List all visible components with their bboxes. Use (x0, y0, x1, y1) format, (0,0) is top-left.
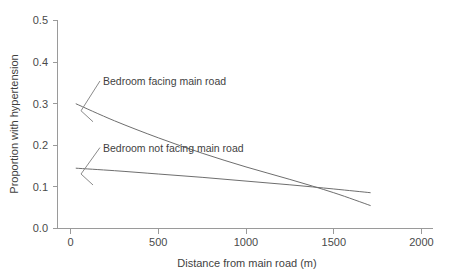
y-tick-label: 0.1 (33, 181, 48, 193)
x-tick-label: 500 (149, 236, 167, 248)
y-axis-tick-labels: 0.0 0.1 0.2 0.3 0.4 0.5 (33, 14, 48, 234)
line-chart: 0.0 0.1 0.2 0.3 0.4 0.5 0 500 1000 1500 … (0, 0, 450, 280)
y-tick-label: 0.4 (33, 56, 48, 68)
y-axis-title: Proportion with hypertension (8, 54, 20, 193)
y-tick-label: 0.3 (33, 98, 48, 110)
annotation-label-bedroom-facing-main-road: Bedroom facing main road (103, 75, 226, 87)
y-tick-label: 0.2 (33, 139, 48, 151)
leader-line-not-facing (81, 148, 100, 185)
series-line-bedroom-facing-main-road (76, 104, 371, 206)
annotation-label-bedroom-not-facing-main-road: Bedroom not facing main road (103, 142, 244, 154)
series-line-bedroom-not-facing-main-road (76, 168, 371, 193)
x-tick-label: 1500 (322, 236, 346, 248)
x-tick-label: 2000 (409, 236, 433, 248)
y-tick-label: 0.0 (33, 222, 48, 234)
x-axis-title: Distance from main road (m) (177, 257, 316, 269)
x-axis-tick-labels: 0 500 1000 1500 2000 (67, 236, 433, 248)
x-axis-ticks (71, 229, 422, 234)
leader-line-facing (81, 81, 100, 122)
x-tick-label: 1000 (234, 236, 258, 248)
x-tick-label: 0 (67, 236, 73, 248)
chart-figure: 0.0 0.1 0.2 0.3 0.4 0.5 0 500 1000 1500 … (0, 0, 450, 280)
y-tick-label: 0.5 (33, 14, 48, 26)
y-axis-ticks (53, 21, 58, 229)
